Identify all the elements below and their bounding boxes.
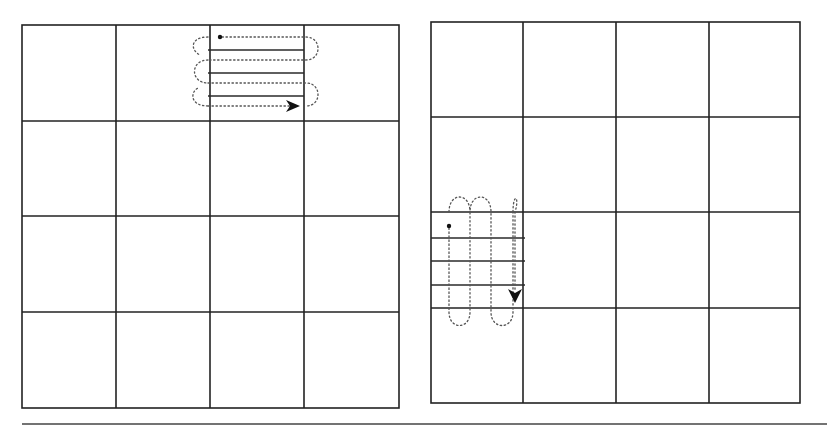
arrow-down-icon — [508, 289, 522, 303]
scan-pass-2 — [208, 83, 318, 106]
scan-pass-3 — [193, 88, 290, 106]
scan-pass-1 — [208, 37, 318, 60]
start-dot-icon — [218, 35, 222, 39]
right-cell-hatch — [431, 238, 525, 285]
right-grid — [431, 22, 800, 403]
scan-turn-left-2 — [193, 37, 208, 55]
scan-turn-left-1 — [195, 60, 209, 83]
left-grid — [22, 25, 399, 408]
scan-top-loop-left — [449, 197, 470, 212]
start-dot-icon — [447, 224, 451, 228]
diagram-canvas — [0, 0, 827, 430]
left-cell-hatch — [208, 50, 304, 96]
